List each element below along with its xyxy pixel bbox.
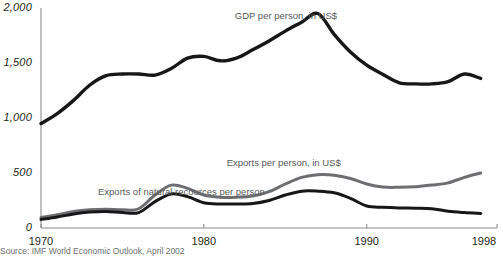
y-tick-label: 0 [0,222,32,233]
series-line-0 [41,13,481,123]
source-note: Source: IMF World Economic Outlook, Apri… [0,247,185,256]
y-tick-label: 1,000 [0,112,32,123]
chart-plot-area [0,0,503,258]
series-label-2: Exports of natural recources per person [98,187,265,197]
chart-container: 05001,0001,5002,000 1970198019901998 GDP… [0,0,503,258]
x-tick-label: 1990 [344,236,390,247]
x-tick-label: 1998 [461,236,503,247]
y-tick-label: 500 [0,167,32,178]
y-tick-label: 2,000 [0,2,32,13]
x-tick-label: 1980 [181,236,227,247]
series-label-0: GDP per person, in US$ [235,11,337,21]
y-tick-label: 1,500 [0,57,32,68]
x-axis-ticks [41,224,497,228]
series-label-1: Exports per person, in US$ [227,158,341,168]
